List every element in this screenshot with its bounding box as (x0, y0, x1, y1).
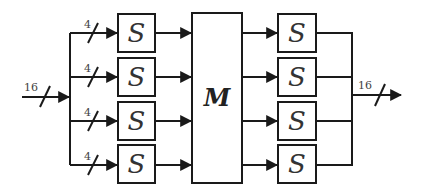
branch-width-label: 4 (84, 62, 91, 75)
sbox-label: S (288, 18, 306, 48)
mixing-box-label: M (203, 83, 232, 112)
sbox-label: S (128, 149, 146, 179)
sbox-label: S (128, 106, 146, 136)
branch-width-label: 4 (84, 106, 91, 119)
output-width-label: 16 (358, 79, 372, 92)
input-width-label: 16 (24, 81, 38, 94)
output-wire: 16 (352, 79, 401, 106)
sbox-label: S (128, 62, 146, 92)
sbox-label: S (288, 106, 306, 136)
spn-round-diagram: 16 4 S 4 S 4 S 4 S M (0, 0, 423, 195)
sbox-label: S (288, 149, 306, 179)
output-branch-3: S (242, 145, 352, 183)
input-branch-2: 4 S (70, 102, 191, 140)
input-wire: 16 (22, 81, 69, 107)
sbox-label: S (288, 62, 306, 92)
sbox-label: S (128, 18, 146, 48)
mixing-box: M (192, 13, 242, 183)
output-branch-0: S (242, 14, 352, 52)
output-branch-2: S (242, 102, 352, 140)
output-branch-1: S (242, 58, 352, 96)
branch-width-label: 4 (84, 18, 91, 31)
branch-width-label: 4 (84, 150, 91, 163)
input-branch-0: 4 S (70, 14, 191, 52)
input-branch-1: 4 S (70, 58, 191, 96)
input-branch-3: 4 S (70, 145, 191, 183)
